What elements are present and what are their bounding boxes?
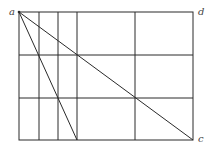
label-d: d (198, 6, 204, 17)
diagonal-a-to-bottom (19, 12, 77, 140)
label-c: c (198, 133, 204, 144)
diagonal-a-to-c (19, 12, 193, 140)
label-a: a (9, 6, 15, 17)
geometric-diagram: a d c (0, 0, 215, 154)
point-a (18, 11, 21, 14)
